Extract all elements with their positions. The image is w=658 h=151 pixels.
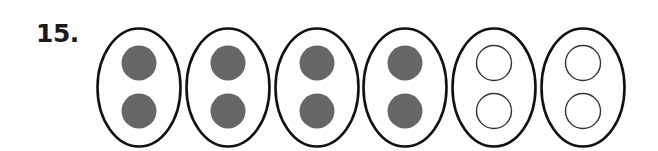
empty-counter [477, 94, 512, 129]
counter-group [542, 29, 625, 147]
filled-counter [211, 94, 246, 129]
empty-counter [566, 94, 601, 129]
filled-counter [300, 46, 335, 81]
counter-groups-figure [0, 0, 658, 151]
empty-counter [566, 46, 601, 81]
filled-counter [211, 46, 246, 81]
filled-counter [122, 46, 157, 81]
filled-counter [300, 94, 335, 129]
counter-group [187, 29, 270, 147]
filled-counter [122, 94, 157, 129]
counter-group [276, 29, 359, 147]
counter-group [98, 29, 181, 147]
counter-group [364, 29, 447, 147]
counter-group [453, 29, 536, 147]
filled-counter [388, 46, 423, 81]
filled-counter [388, 94, 423, 129]
empty-counter [477, 46, 512, 81]
